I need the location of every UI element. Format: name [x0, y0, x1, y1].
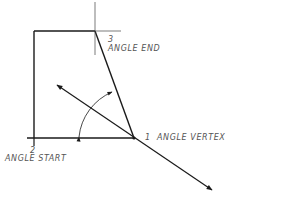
angle-diagram: [0, 0, 292, 205]
angle-vertex-label: ANGLE VERTEX: [157, 134, 225, 142]
angle-vertex-number: 1: [145, 134, 151, 142]
angle-dimension-arc: [79, 92, 112, 137]
angle-end-label: ANGLE END: [108, 45, 160, 53]
angle-end-number: 3: [108, 36, 114, 44]
angle-start-label: ANGLE START: [5, 155, 66, 163]
